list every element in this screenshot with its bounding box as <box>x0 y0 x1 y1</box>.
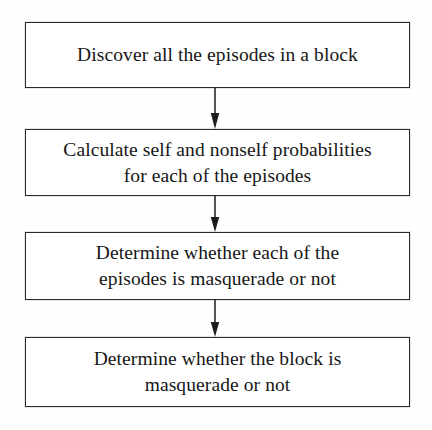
flowchart-node-label: Determine whether the block is masquerad… <box>86 346 350 398</box>
flowchart-node-label: Calculate self and nonself probabilities… <box>55 137 379 189</box>
flowchart-node-discover-episodes: Discover all the episodes in a block <box>25 22 410 88</box>
flowchart-node-label: Discover all the episodes in a block <box>69 42 366 68</box>
flowchart-node-determine-episode-masquerade: Determine whether each of the episodes i… <box>25 232 410 300</box>
flowchart-arrow-down-icon <box>206 196 224 232</box>
flowchart-arrow-down-icon <box>206 300 224 337</box>
flowchart-diagram: Discover all the episodes in a block Cal… <box>0 0 432 430</box>
flowchart-node-determine-block-masquerade: Determine whether the block is masquerad… <box>25 337 410 407</box>
flowchart-node-calculate-probabilities: Calculate self and nonself probabilities… <box>25 129 410 196</box>
flowchart-node-label: Determine whether each of the episodes i… <box>88 240 347 292</box>
flowchart-arrow-down-icon <box>206 88 224 129</box>
